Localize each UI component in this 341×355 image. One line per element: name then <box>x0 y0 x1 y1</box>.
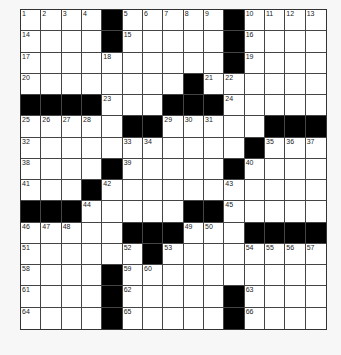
grid-cell[interactable] <box>245 116 265 137</box>
grid-cell[interactable] <box>306 31 326 52</box>
grid-cell[interactable] <box>41 244 61 265</box>
grid-cell[interactable]: 63 <box>245 286 265 307</box>
grid-cell[interactable] <box>245 95 265 116</box>
grid-cell[interactable] <box>265 265 285 286</box>
grid-cell[interactable] <box>204 180 224 201</box>
grid-cell[interactable] <box>306 265 326 286</box>
grid-cell[interactable] <box>184 180 204 201</box>
grid-cell[interactable] <box>62 31 82 52</box>
grid-cell[interactable] <box>306 95 326 116</box>
grid-cell[interactable]: 14 <box>21 31 41 52</box>
grid-cell[interactable]: 3 <box>62 10 82 31</box>
grid-cell[interactable] <box>41 265 61 286</box>
grid-cell[interactable] <box>102 74 122 95</box>
grid-cell[interactable] <box>265 74 285 95</box>
grid-cell[interactable]: 31 <box>204 116 224 137</box>
grid-cell[interactable] <box>285 180 305 201</box>
grid-cell[interactable]: 53 <box>163 244 183 265</box>
grid-cell[interactable] <box>82 74 102 95</box>
grid-cell[interactable] <box>62 159 82 180</box>
grid-cell[interactable]: 22 <box>224 74 244 95</box>
grid-cell[interactable]: 25 <box>21 116 41 137</box>
grid-cell[interactable] <box>285 95 305 116</box>
grid-cell[interactable]: 57 <box>306 244 326 265</box>
grid-cell[interactable]: 45 <box>224 201 244 222</box>
grid-cell[interactable] <box>123 95 143 116</box>
grid-cell[interactable] <box>285 308 305 329</box>
grid-cell[interactable] <box>204 308 224 329</box>
grid-cell[interactable] <box>285 265 305 286</box>
grid-cell[interactable] <box>204 286 224 307</box>
grid-cell[interactable]: 50 <box>204 223 224 244</box>
grid-cell[interactable] <box>245 201 265 222</box>
grid-cell[interactable]: 47 <box>41 223 61 244</box>
grid-cell[interactable] <box>123 74 143 95</box>
grid-cell[interactable]: 16 <box>245 31 265 52</box>
grid-cell[interactable] <box>204 31 224 52</box>
grid-cell[interactable] <box>62 180 82 201</box>
grid-cell[interactable] <box>306 53 326 74</box>
grid-cell[interactable] <box>102 244 122 265</box>
grid-cell[interactable]: 4 <box>82 10 102 31</box>
grid-cell[interactable]: 21 <box>204 74 224 95</box>
grid-cell[interactable] <box>41 31 61 52</box>
grid-cell[interactable]: 12 <box>285 10 305 31</box>
grid-cell[interactable] <box>102 116 122 137</box>
grid-cell[interactable] <box>123 53 143 74</box>
grid-cell[interactable] <box>41 138 61 159</box>
grid-cell[interactable] <box>285 159 305 180</box>
grid-cell[interactable]: 64 <box>21 308 41 329</box>
grid-cell[interactable] <box>143 286 163 307</box>
grid-cell[interactable] <box>306 286 326 307</box>
grid-cell[interactable]: 26 <box>41 116 61 137</box>
grid-cell[interactable] <box>265 53 285 74</box>
grid-cell[interactable] <box>306 180 326 201</box>
grid-cell[interactable]: 46 <box>21 223 41 244</box>
grid-cell[interactable] <box>62 286 82 307</box>
grid-cell[interactable]: 65 <box>123 308 143 329</box>
grid-cell[interactable]: 23 <box>102 95 122 116</box>
grid-cell[interactable] <box>163 159 183 180</box>
grid-cell[interactable] <box>184 286 204 307</box>
grid-cell[interactable] <box>204 244 224 265</box>
grid-cell[interactable] <box>184 138 204 159</box>
grid-cell[interactable]: 48 <box>62 223 82 244</box>
grid-cell[interactable]: 10 <box>245 10 265 31</box>
grid-cell[interactable] <box>224 244 244 265</box>
grid-cell[interactable]: 17 <box>21 53 41 74</box>
grid-cell[interactable] <box>123 180 143 201</box>
grid-cell[interactable]: 54 <box>245 244 265 265</box>
grid-cell[interactable]: 27 <box>62 116 82 137</box>
grid-cell[interactable]: 29 <box>163 116 183 137</box>
grid-cell[interactable] <box>41 286 61 307</box>
grid-cell[interactable] <box>82 53 102 74</box>
grid-cell[interactable]: 66 <box>245 308 265 329</box>
grid-cell[interactable] <box>62 308 82 329</box>
grid-cell[interactable]: 61 <box>21 286 41 307</box>
grid-cell[interactable]: 34 <box>143 138 163 159</box>
grid-cell[interactable]: 15 <box>123 31 143 52</box>
grid-cell[interactable] <box>265 201 285 222</box>
grid-cell[interactable]: 38 <box>21 159 41 180</box>
grid-cell[interactable] <box>184 53 204 74</box>
grid-cell[interactable]: 40 <box>245 159 265 180</box>
grid-cell[interactable] <box>102 201 122 222</box>
grid-cell[interactable] <box>163 53 183 74</box>
grid-cell[interactable] <box>41 159 61 180</box>
grid-cell[interactable] <box>285 286 305 307</box>
grid-cell[interactable] <box>102 138 122 159</box>
grid-cell[interactable] <box>62 74 82 95</box>
grid-cell[interactable] <box>143 201 163 222</box>
grid-cell[interactable] <box>41 53 61 74</box>
grid-cell[interactable] <box>184 244 204 265</box>
grid-cell[interactable] <box>163 308 183 329</box>
grid-cell[interactable]: 11 <box>265 10 285 31</box>
grid-cell[interactable]: 55 <box>265 244 285 265</box>
grid-cell[interactable]: 24 <box>224 95 244 116</box>
grid-cell[interactable] <box>143 159 163 180</box>
grid-cell[interactable]: 2 <box>41 10 61 31</box>
grid-cell[interactable] <box>265 159 285 180</box>
grid-cell[interactable]: 6 <box>143 10 163 31</box>
grid-cell[interactable] <box>224 223 244 244</box>
grid-cell[interactable] <box>82 244 102 265</box>
